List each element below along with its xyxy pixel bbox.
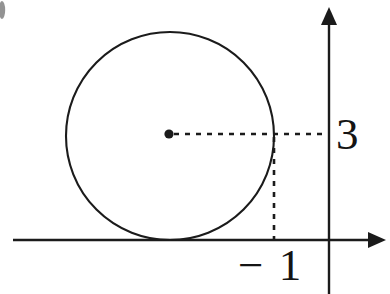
diagram-svg bbox=[0, 0, 390, 294]
y-axis-value-label: 3 bbox=[336, 112, 359, 157]
x-axis-value-label: − 1 bbox=[238, 243, 303, 288]
scan-smudge-mark bbox=[0, 1, 5, 19]
figure-canvas: 3 − 1 bbox=[0, 0, 390, 294]
y-axis bbox=[321, 7, 337, 294]
y-axis-arrowhead-icon bbox=[321, 7, 337, 25]
x-axis-arrowhead-icon bbox=[368, 232, 386, 248]
circle-center-point bbox=[164, 129, 173, 138]
